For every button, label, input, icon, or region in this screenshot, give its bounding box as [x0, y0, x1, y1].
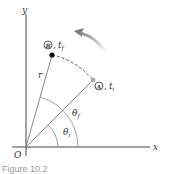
path-arc — [52, 55, 93, 80]
point-a-dot — [91, 78, 96, 83]
radius-line-a — [26, 80, 93, 147]
point-b-symbol: B — [45, 42, 51, 49]
point-a-time: ,ti — [104, 81, 115, 92]
point-a-symbol: A — [96, 83, 102, 90]
radius-label: r — [38, 70, 43, 80]
angle-initial-label: θi — [63, 127, 70, 138]
point-b-time: ,tf — [53, 40, 66, 52]
rotation-arrow-icon — [74, 28, 106, 52]
figure-caption: Figure 10.2 — [2, 164, 48, 174]
y-axis-label: y — [21, 5, 28, 15]
origin-label: O — [14, 150, 22, 160]
angle-final-label: θf — [72, 108, 81, 120]
x-axis-label: x — [153, 142, 158, 152]
point-b-dot — [49, 52, 54, 57]
radius-line-b — [26, 55, 52, 147]
angle-arc-initial — [48, 125, 58, 147]
rotation-diagram: B ,tf A ,ti r θf θi y x O — [0, 0, 169, 174]
angle-arc-final — [40, 97, 78, 147]
